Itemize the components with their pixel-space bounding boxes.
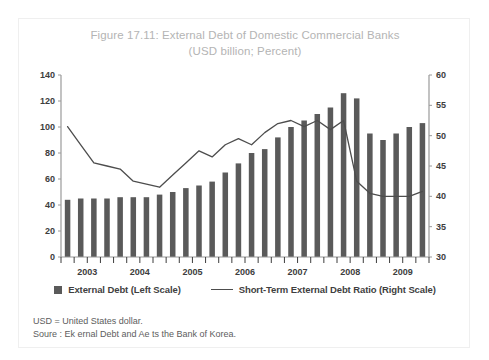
- left-axis-tick-label: 40: [45, 200, 55, 210]
- bar-external-debt: [223, 173, 229, 258]
- legend-item-short-term-ratio: Short-Term External Debt Ratio (Right Sc…: [211, 284, 436, 295]
- legend-bar-swatch-icon: [54, 286, 62, 294]
- left-axis-tick-label: 100: [40, 122, 55, 132]
- x-axis: 2003200420052006200720082009: [61, 257, 429, 277]
- x-axis-year-label: 2003: [77, 267, 97, 277]
- bar-external-debt: [275, 137, 281, 257]
- bar-external-debt: [249, 153, 255, 257]
- legend-item-external-debt: External Debt (Left Scale): [54, 284, 181, 295]
- bar-external-debt: [407, 127, 413, 257]
- chart-title-line-1: Figure 17.11: External Debt of Domestic …: [19, 27, 471, 43]
- figure-footnote: USD = United States dollar. Soure : Ek e…: [33, 315, 453, 340]
- bar-external-debt: [288, 127, 294, 257]
- right-axis-tick-label: 30: [436, 252, 446, 262]
- chart-title-subtitle: (USD billion; Percent): [19, 43, 471, 59]
- footnote-abbreviation: USD = United States dollar.: [33, 315, 453, 328]
- bar-external-debt: [354, 98, 360, 257]
- left-axis-tick-label: 60: [45, 174, 55, 184]
- bar-external-debt: [209, 182, 215, 257]
- bar-external-debt: [104, 199, 110, 258]
- right-axis-tick-label: 50: [436, 131, 446, 141]
- left-axis-tick-label: 140: [40, 70, 55, 80]
- x-axis-year-label: 2006: [235, 267, 255, 277]
- right-axis-tick-label: 40: [436, 191, 446, 201]
- x-axis-year-label: 2005: [182, 267, 202, 277]
- bar-external-debt: [341, 93, 347, 257]
- x-axis-year-label: 2009: [393, 267, 413, 277]
- left-axis-tick-label: 0: [50, 252, 55, 262]
- left-axis-tick-label: 20: [45, 226, 55, 236]
- bar-external-debt: [301, 121, 307, 258]
- bar-external-debt: [131, 197, 137, 257]
- x-axis-year-label: 2007: [288, 267, 308, 277]
- bar-external-debt: [367, 134, 373, 258]
- right-axis: 30354045505560: [429, 70, 446, 262]
- x-axis-year-label: 2004: [130, 267, 150, 277]
- bar-external-debt: [262, 149, 268, 257]
- left-axis: 020406080100120140: [40, 70, 61, 262]
- bar-external-debt: [236, 163, 242, 257]
- bar-external-debt: [315, 114, 321, 257]
- bar-external-debt: [196, 186, 202, 258]
- bar-external-debt: [170, 192, 176, 257]
- right-axis-tick-label: 35: [436, 222, 446, 232]
- figure-frame: Figure 17.11: External Debt of Domestic …: [18, 18, 470, 348]
- chart-legend: External Debt (Left Scale) Short-Term Ex…: [19, 284, 471, 295]
- x-axis-year-label: 2008: [340, 267, 360, 277]
- bar-series-external-debt: [65, 93, 425, 257]
- legend-label-short-term-ratio: Short-Term External Debt Ratio (Right Sc…: [239, 284, 436, 295]
- left-axis-tick-label: 120: [40, 96, 55, 106]
- bar-external-debt: [380, 140, 386, 257]
- bar-external-debt: [78, 199, 84, 258]
- bar-external-debt: [393, 134, 399, 258]
- bar-external-debt: [117, 197, 123, 257]
- bar-external-debt: [420, 123, 426, 257]
- legend-line-swatch-icon: [211, 289, 233, 290]
- combo-chart-svg: 020406080100120140 30354045505560 200320…: [19, 67, 471, 285]
- legend-label-external-debt: External Debt (Left Scale): [68, 284, 181, 295]
- bar-external-debt: [91, 199, 97, 258]
- chart-title: Figure 17.11: External Debt of Domestic …: [19, 27, 471, 59]
- bar-external-debt: [183, 188, 189, 257]
- right-axis-tick-label: 45: [436, 161, 446, 171]
- right-axis-tick-label: 55: [436, 100, 446, 110]
- right-axis-tick-label: 60: [436, 70, 446, 80]
- left-axis-tick-label: 80: [45, 148, 55, 158]
- footnote-source: Soure : Ek ernal Debt and Ae ts the Bank…: [33, 328, 453, 341]
- bar-external-debt: [65, 200, 71, 257]
- bar-external-debt: [157, 195, 163, 257]
- chart-plot-area: 020406080100120140 30354045505560 200320…: [19, 67, 471, 285]
- bar-external-debt: [144, 197, 150, 257]
